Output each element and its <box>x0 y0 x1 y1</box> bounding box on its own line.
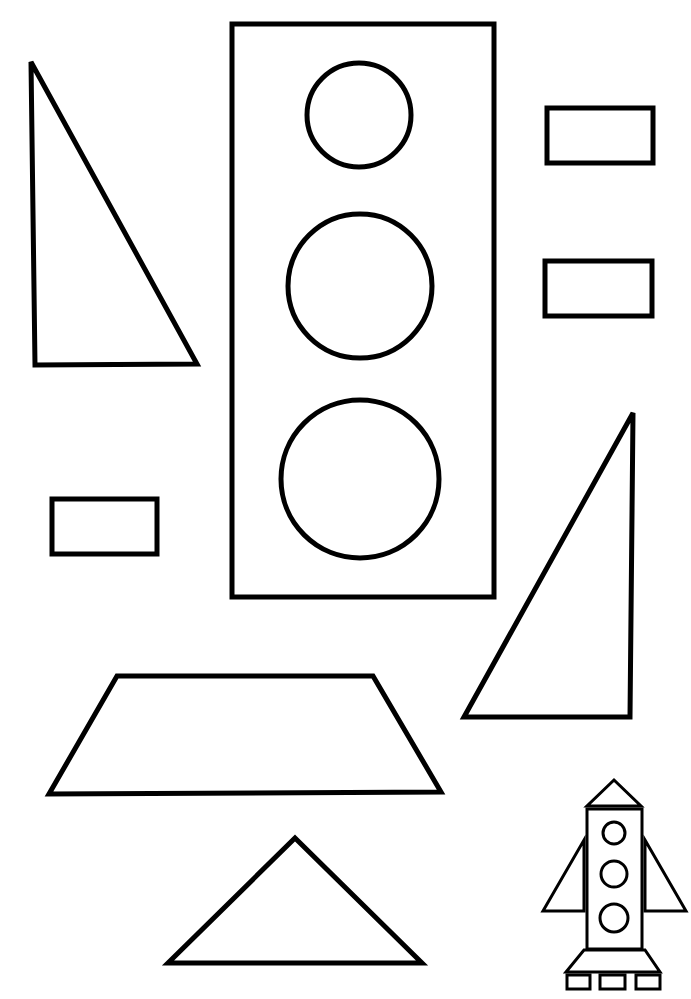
shapes-worksheet <box>0 0 691 999</box>
